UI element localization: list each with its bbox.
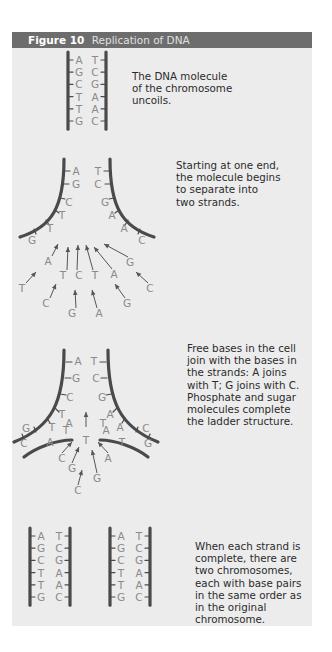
free-base: G: [126, 256, 134, 268]
arrow-head-icon: [73, 290, 78, 295]
free-base: T: [59, 269, 67, 281]
tick: [106, 394, 112, 395]
base-label: A: [135, 579, 143, 591]
base-label: A: [108, 209, 116, 221]
free-base: G: [68, 462, 76, 474]
base-label: A: [75, 54, 83, 66]
tick: [113, 408, 117, 412]
base-label: C: [75, 78, 82, 90]
free-base: C: [42, 297, 49, 309]
base-label: G: [37, 591, 45, 603]
new-base: T: [118, 436, 126, 448]
base-label: T: [90, 355, 98, 367]
free-base: C: [74, 484, 81, 496]
free-base: A: [110, 268, 118, 280]
arrow-head-icon: [115, 284, 120, 289]
base-label: T: [55, 530, 63, 542]
free-base: T: [91, 269, 99, 281]
figure-panel: Figure 10 Replication of DNA The DNA mol…: [12, 32, 312, 626]
new-base: A: [65, 417, 73, 429]
base-label: A: [120, 222, 128, 234]
new-base: A: [46, 436, 54, 448]
base-label: C: [135, 542, 142, 554]
base-label: G: [72, 178, 80, 190]
base-label: T: [94, 165, 102, 177]
arrow-head-icon: [76, 245, 81, 250]
base-label: C: [65, 196, 72, 208]
dna-diagram: AGCTTGTCGAACAGCTTGTCGAACATCTAGTCGAGCAGCT…: [12, 32, 312, 626]
base-label: G: [72, 372, 80, 384]
base-label: T: [46, 222, 54, 234]
base-label: G: [22, 422, 30, 434]
arrow-head-icon: [91, 450, 95, 455]
free-base: G: [93, 472, 101, 484]
free-base: C: [58, 452, 65, 464]
base-label: A: [117, 530, 125, 542]
base-label: G: [135, 554, 143, 566]
free-base: A: [44, 255, 52, 267]
base-label: A: [91, 103, 99, 115]
free-base: C: [146, 282, 153, 294]
base-label: G: [75, 115, 83, 127]
base-label: C: [20, 437, 27, 449]
tick: [60, 394, 66, 395]
arrow-head-icon: [84, 412, 89, 417]
base-label: G: [91, 78, 99, 90]
base-label: T: [58, 209, 66, 221]
base-label: C: [142, 422, 149, 434]
base-label: T: [91, 54, 99, 66]
base-label: A: [91, 91, 99, 103]
base-label: G: [98, 391, 106, 403]
free-base: G: [68, 307, 76, 319]
base-label: C: [37, 554, 44, 566]
base-label: C: [138, 234, 145, 246]
base-label: A: [55, 579, 63, 591]
base-label: T: [37, 567, 45, 579]
base-label: T: [117, 579, 125, 591]
base-label: C: [55, 542, 62, 554]
base-label: T: [48, 421, 56, 433]
free-base: G: [123, 297, 131, 309]
base-label: G: [28, 234, 36, 246]
base-label: C: [135, 591, 142, 603]
base-label: A: [37, 530, 45, 542]
left-strand-backbone: [20, 159, 64, 237]
base-label: G: [144, 437, 152, 449]
base-label: G: [101, 196, 109, 208]
base-label: C: [92, 372, 99, 384]
base-label: A: [55, 567, 63, 579]
free-base: C: [75, 269, 82, 281]
base-label: C: [94, 178, 101, 190]
base-label: G: [117, 591, 125, 603]
base-label: T: [135, 530, 143, 542]
base-label: G: [117, 542, 125, 554]
free-base: A: [104, 452, 112, 464]
base-label: T: [75, 91, 83, 103]
right-strand-backbone: [110, 159, 154, 237]
free-base: A: [95, 307, 103, 319]
base-label: T: [75, 103, 83, 115]
base-label: C: [117, 554, 124, 566]
base-label: T: [117, 567, 125, 579]
base-label: C: [55, 591, 62, 603]
base-label: A: [72, 165, 80, 177]
base-label: A: [106, 408, 114, 420]
arrow-head-icon: [65, 247, 70, 252]
base-label: G: [37, 542, 45, 554]
base-label: G: [75, 66, 83, 78]
free-base: T: [18, 282, 26, 294]
free-base: T: [82, 434, 90, 446]
base-label: G: [55, 554, 63, 566]
base-label: T: [37, 579, 45, 591]
base-label: A: [116, 421, 124, 433]
base-label: A: [135, 567, 143, 579]
base-label: A: [74, 355, 82, 367]
base-label: C: [66, 391, 73, 403]
base-label: C: [91, 115, 98, 127]
new-base: T: [99, 417, 107, 429]
base-label: C: [91, 66, 98, 78]
